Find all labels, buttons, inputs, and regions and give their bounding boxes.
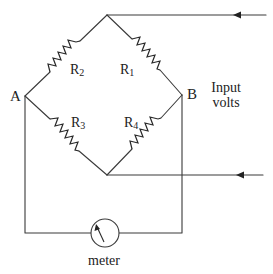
meter-label: meter xyxy=(88,253,120,268)
resistor-r1-label: R1 xyxy=(120,62,134,78)
arm-r1 xyxy=(107,15,182,95)
galvanometer-icon xyxy=(91,219,119,247)
arrow-left-icon xyxy=(233,12,241,19)
resistor-r4-label: R4 xyxy=(124,115,138,131)
node-b-label: B xyxy=(187,86,197,102)
arm-r3 xyxy=(25,96,107,175)
resistor-r3-label: R3 xyxy=(71,115,85,131)
resistor-r2-label: R2 xyxy=(70,62,84,78)
arrow-left-icon xyxy=(236,172,244,179)
input-lead-top xyxy=(107,12,266,19)
input-lead-bottom xyxy=(107,172,263,179)
input-volts-label-line1: Input xyxy=(211,80,241,95)
wheatstone-bridge-diagram: A B R2 R1 R3 R4 Input volts meter xyxy=(0,0,273,274)
input-volts-label-line2: volts xyxy=(212,95,239,110)
node-a-label: A xyxy=(10,88,21,104)
arm-r2 xyxy=(25,15,107,96)
arm-r4 xyxy=(107,95,182,175)
resistor-r1-icon xyxy=(132,37,160,70)
